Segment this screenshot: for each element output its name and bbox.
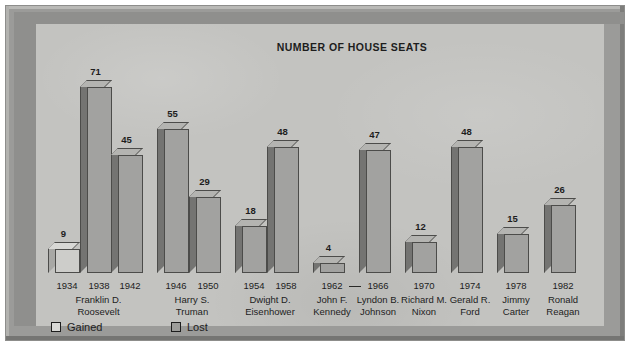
legend-swatch-gained-icon [51, 322, 61, 332]
frame-bevel-bottom [6, 336, 624, 340]
legend-label-lost: Lost [187, 321, 208, 333]
frame-bevel-left [6, 6, 9, 340]
president-axis-labels: Franklin D.RooseveltHarry S.TrumanDwight… [36, 24, 604, 326]
president-name-line1: Ronald [513, 294, 613, 306]
president-label-9: RonaldReagan [513, 294, 613, 317]
president-name-line2: Reagan [513, 306, 613, 318]
frame-bevel-top [6, 6, 624, 9]
chart-card-frame: NUMBER OF HOUSE SEATS 971455529184844712… [6, 6, 624, 340]
frame-inner-shadow-left [14, 16, 36, 326]
frame-bevel-right [620, 6, 624, 340]
legend-item-gained[interactable]: Gained [51, 321, 102, 333]
frame-inner-shadow-top [14, 12, 624, 24]
president-name-line2: Roosevelt [49, 306, 149, 318]
scanned-chart-image: NUMBER OF HOUSE SEATS 971455529184844712… [0, 0, 639, 353]
president-label-1: Franklin D.Roosevelt [49, 294, 149, 317]
legend-item-lost[interactable]: Lost [171, 321, 208, 333]
legend-swatch-lost-icon [171, 322, 181, 332]
legend-label-gained: Gained [67, 321, 102, 333]
chart-plot-paper: NUMBER OF HOUSE SEATS 971455529184844712… [36, 24, 604, 326]
president-name-line1: Franklin D. [49, 294, 149, 306]
